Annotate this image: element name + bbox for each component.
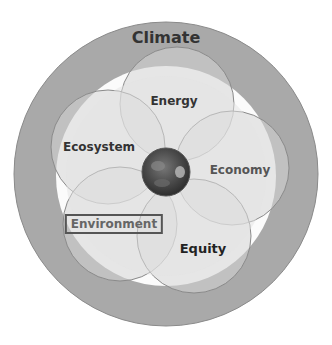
label-economy: Economy <box>210 163 271 177</box>
label-climate: Climate <box>132 28 201 47</box>
label-equity: Equity <box>180 241 227 256</box>
sustainability-diagram: Climate Energy Ecosystem Economy Environ… <box>0 0 332 345</box>
label-energy: Energy <box>150 94 197 108</box>
earth-icon <box>142 148 190 196</box>
label-environment: Environment <box>65 214 163 234</box>
label-ecosystem: Ecosystem <box>63 140 135 154</box>
diagram-graphic <box>0 0 332 345</box>
